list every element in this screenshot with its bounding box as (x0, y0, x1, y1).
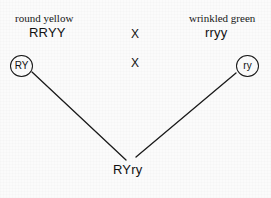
right-parent-genotype-label: rryy (205, 26, 227, 40)
left-gamete-circle: RY (10, 55, 33, 77)
left-parent-phenotype-label: round yellow (15, 12, 73, 24)
right-parent-phenotype-label: wrinkled green (189, 12, 255, 24)
left-gamete-label: RY (15, 61, 29, 71)
genetic-cross-figure: round yellow RRYY RY X X wrinkled green … (0, 0, 271, 198)
cross-symbol-top: X (131, 28, 139, 40)
left-parent-genotype-label: RRYY (29, 26, 66, 40)
right-gamete-circle: ry (236, 55, 259, 77)
left-gamete-connector-line (32, 72, 126, 160)
offspring-genotype-label: RYry (113, 163, 142, 177)
right-gamete-label: ry (243, 61, 251, 71)
cross-symbol-bottom: X (131, 57, 139, 69)
right-gamete-connector-line (136, 73, 236, 157)
